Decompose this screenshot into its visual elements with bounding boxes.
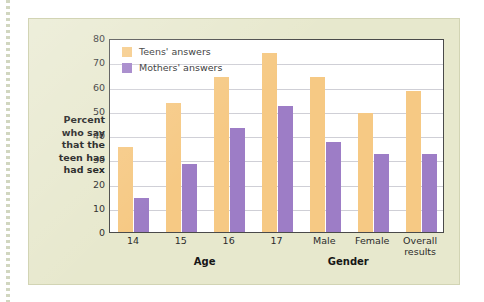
bar-group: [262, 40, 293, 232]
x-axis-tick-label-line: Overall: [394, 235, 446, 246]
y-axis-tick-label: 10: [83, 204, 105, 214]
x-axis-tick-label: 16: [203, 235, 255, 246]
bar-mothers: [230, 128, 245, 232]
x-axis-tick-label-line: 14: [107, 235, 159, 246]
bar-mothers: [134, 198, 149, 232]
legend-item-mothers: Mothers' answers: [122, 62, 222, 73]
bar-mothers: [278, 106, 293, 232]
x-axis-tick-label: Overallresults: [394, 235, 446, 257]
y-axis-tick-label: 0: [83, 228, 105, 238]
page-margin-dotted-rule: [6, 0, 10, 302]
x-axis-tick-label-line: Female: [346, 235, 398, 246]
bar-group: [406, 40, 437, 232]
figure-panel: Percent who say that the teen has had se…: [28, 18, 460, 285]
y-axis-tick-label: 70: [83, 59, 105, 69]
y-axis-tick-label: 40: [83, 131, 105, 141]
bar-mothers: [422, 154, 437, 232]
legend-label-teens: Teens' answers: [139, 46, 211, 57]
legend-label-mothers: Mothers' answers: [139, 62, 222, 73]
bar-teens: [262, 53, 277, 232]
chart-legend: Teens' answers Mothers' answers: [122, 46, 222, 78]
legend-swatch-mothers-icon: [122, 63, 132, 73]
bar-teens: [310, 77, 325, 232]
x-axis-group-caption: Gender: [308, 256, 388, 267]
plot-area: Teens' answers Mothers' answers: [109, 39, 444, 233]
legend-item-teens: Teens' answers: [122, 46, 222, 57]
legend-swatch-teens-icon: [122, 47, 132, 57]
y-axis-tick-label: 80: [83, 34, 105, 44]
y-axis-tick-label: 50: [83, 107, 105, 117]
y-axis-tick-label: 30: [83, 156, 105, 166]
bar-teens: [406, 91, 421, 232]
x-axis-group-captions: AgeGender: [109, 256, 444, 274]
x-axis-tick-label: Male: [298, 235, 350, 246]
x-axis-tick-label: 14: [107, 235, 159, 246]
x-axis-tick-label-line: 17: [251, 235, 303, 246]
x-axis-tick-label: Female: [346, 235, 398, 246]
bar-mothers: [326, 142, 341, 232]
y-axis-tick-label: 60: [83, 83, 105, 93]
x-axis-tick-label-line: 16: [203, 235, 255, 246]
bar-group: [358, 40, 389, 232]
x-axis-group-caption: Age: [165, 256, 245, 267]
y-axis-tick-label: 20: [83, 180, 105, 190]
bar-group: [310, 40, 341, 232]
x-axis-tick-label-line: 15: [155, 235, 207, 246]
x-axis-tick-label: 15: [155, 235, 207, 246]
bar-teens: [358, 113, 373, 232]
x-axis-tick-label: 17: [251, 235, 303, 246]
bar-mothers: [374, 154, 389, 232]
bar-teens: [214, 77, 229, 232]
bar-mothers: [182, 164, 197, 232]
y-axis-ticks: 01020304050607080: [79, 39, 105, 233]
bar-teens: [118, 147, 133, 232]
x-axis-tick-label-line: Male: [298, 235, 350, 246]
bar-teens: [166, 103, 181, 232]
